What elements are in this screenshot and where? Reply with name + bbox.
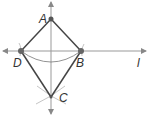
label-line-l: l [137,56,140,70]
point-d [18,48,24,54]
point-c [50,96,53,99]
label-a: A [38,12,47,26]
label-d: D [13,56,22,70]
kite-construction-diagram: A B C D l [0,0,148,116]
label-c: C [59,91,68,105]
point-a [49,17,54,22]
point-b [78,48,84,54]
label-b: B [76,56,84,70]
